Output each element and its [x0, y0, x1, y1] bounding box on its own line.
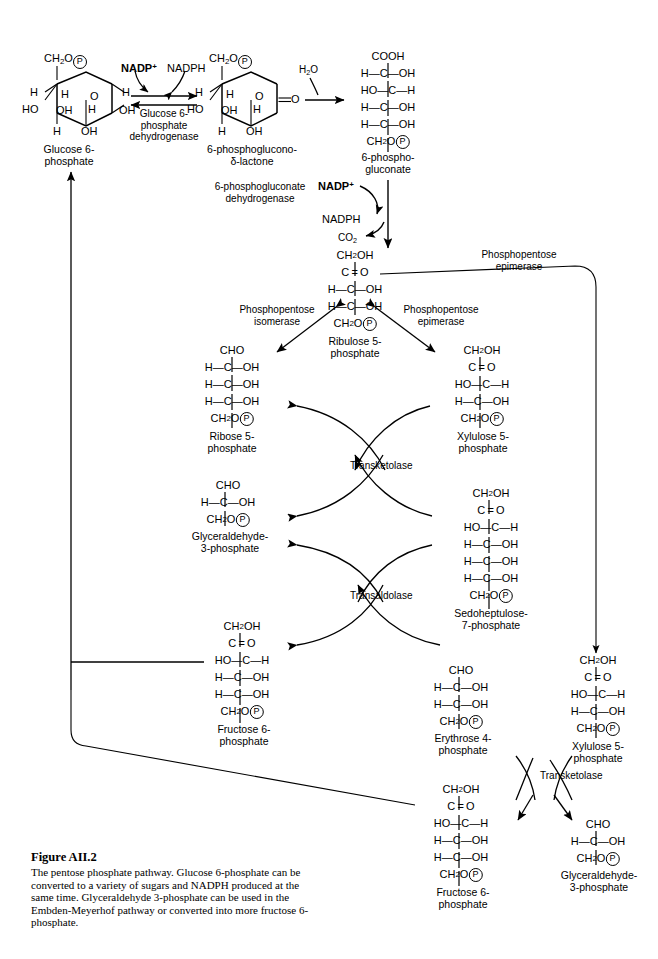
ribose5p-row-2: H—C—OH: [205, 359, 259, 376]
ribulose5p-row-3: H—C—OH: [328, 281, 382, 298]
glucose6p-h-c2: H: [88, 103, 96, 115]
structure-glyceraldehyde-3-phosphate-mid: CHO H—C—OH CH2OP: [201, 477, 255, 528]
f6p-mid-row-3: HO—C—H: [215, 652, 269, 669]
ribose5p-row-1: CHO: [205, 342, 259, 359]
fructose6p-mid-label: Fructose 6- phosphate: [206, 724, 282, 747]
lactone-ch2op: CH2OP: [209, 52, 252, 69]
f6p-low-row-2: C = O: [434, 798, 488, 815]
enzyme-phosphopentose-isomerase: Phosphopentose isomerase: [222, 304, 332, 327]
xylulose5p-lower-row-2: C = O: [571, 669, 625, 686]
sedo7p-row-5: H—C—OH: [464, 553, 518, 570]
enzyme-transketolase-upper: Transketolase: [350, 460, 436, 472]
gluconate-row-2: H—C—OH: [361, 65, 415, 82]
f6p-mid-row-1: CH2OH: [215, 618, 269, 635]
structure-erythrose-4-phosphate: CHO H—C—OH H—C—OH CH2OP: [434, 662, 488, 730]
lactone-carbonyl-o: O: [291, 93, 300, 105]
glucose6p-ho: HO: [22, 103, 39, 115]
ribulose5p-row-4: H—C—OH: [328, 298, 382, 315]
structure-fructose-6-phosphate-mid: CH2OH C = O HO—C—H H—C—OH H—C—OH CH2OP: [215, 618, 269, 720]
lactone-oh-inner: OH: [221, 104, 238, 116]
e4p-row-2: H—C—OH: [434, 679, 488, 696]
f6p-low-row-5: H—C—OH: [434, 849, 488, 866]
xylulose5p-lower-label: Xylulose 5- phosphate: [561, 741, 635, 764]
ribose5p-label: Ribose 5- phosphate: [196, 431, 268, 454]
g3p-low-row-2: H—C—OH: [571, 833, 625, 850]
xylulose5p-lower-row-3: HO—C—H: [571, 686, 625, 703]
sedo7p-row-7: CH2OP: [464, 587, 518, 604]
glucose6p-h-left: H: [30, 86, 38, 98]
g3p-mid-label: Glyceraldehyde- 3-phosphate: [182, 531, 278, 554]
lactone-h-left: H: [195, 86, 203, 98]
ribose5p-row-3: H—C—OH: [205, 376, 259, 393]
structure-ribose-5-phosphate: CHO H—C—OH H—C—OH H—C—OH CH2OP: [205, 342, 259, 427]
f6p-low-row-3: HO—C—H: [434, 815, 488, 832]
glucose6p-h-inner: H: [61, 88, 69, 100]
gluconate-row-5: H—C—OH: [361, 116, 415, 133]
xylulose5p-upper-row-2: C = O: [455, 359, 509, 376]
xylulose5p-upper-row-3: HO—C—H: [455, 376, 509, 393]
figure-caption-text: The pentose phosphate pathway. Glucose 6…: [31, 866, 321, 929]
xylulose5p-upper-label: Xylulose 5- phosphate: [446, 431, 520, 454]
xylulose5p-lower-row-1: CH2OH: [571, 652, 625, 669]
co2-label: CO2: [338, 232, 357, 245]
enzyme-phosphopentose-epimerase-mid: Phosphopentose epimerase: [386, 304, 496, 327]
nadph2-label: NADPH: [322, 213, 361, 225]
gluconate-row-3: HO—C—H: [361, 82, 415, 99]
ribose5p-row-5: CH2OP: [205, 410, 259, 427]
structure-6-phosphogluconate: COOH H—C—OH HO—C—H H—C—OH H—C—OH CH2OP: [361, 48, 415, 150]
f6p-mid-row-4: H—C—OH: [215, 669, 269, 686]
structure-sedoheptulose-7-phosphate: CH2OH C = O HO—C—H H—C—OH H—C—OH H—C—OH …: [464, 485, 518, 604]
enzyme-phosphopentose-epimerase-top: Phosphopentose epimerase: [464, 249, 574, 272]
water-label: H2O: [299, 64, 318, 77]
enzyme-transaldolase: Transaldolase: [350, 590, 436, 602]
structure-xylulose-5-phosphate-upper: CH2OH C = O HO—C—H H—C—OH CH2OP: [455, 342, 509, 427]
glucose6p-o-ring: O: [90, 90, 99, 102]
xylulose5p-upper-row-4: H—C—OH: [455, 393, 509, 410]
ribulose5p-label: Ribulose 5- phosphate: [318, 336, 392, 359]
sedoheptulose7p-label: Sedoheptulose- 7-phosphate: [443, 608, 539, 631]
ribose5p-row-4: H—C—OH: [205, 393, 259, 410]
lactone-label: 6-phosphoglucono- δ-lactone: [194, 144, 310, 167]
figure-canvas: CH2OP H H HO OH O H H OH H OH Glucose 6-…: [0, 0, 658, 959]
f6p-low-row-6: CH2OP: [434, 866, 488, 883]
e4p-row-3: H—C—OH: [434, 696, 488, 713]
e4p-row-4: CH2OP: [434, 713, 488, 730]
g3p-mid-row-2: H—C—OH: [201, 494, 255, 511]
gluconate-row-4: H—C—OH: [361, 99, 415, 116]
nadph-top-label: NADPH: [167, 62, 206, 74]
e4p-row-1: CHO: [434, 662, 488, 679]
ribulose5p-row-1: CH2OH: [328, 247, 382, 264]
ribulose5p-row-2: C = O: [328, 264, 382, 281]
f6p-mid-row-2: C = O: [215, 635, 269, 652]
xylulose5p-lower-row-5: CH2OP: [571, 720, 625, 737]
f6p-mid-row-5: H—C—OH: [215, 686, 269, 703]
g3p-low-row-1: CHO: [571, 816, 625, 833]
g3p-mid-row-1: CHO: [201, 477, 255, 494]
lactone-h-c2: H: [253, 103, 261, 115]
fructose6p-to-glucose6p-line: [71, 172, 204, 690]
hydrolysis-arrow: [305, 78, 344, 100]
sedo7p-row-3: HO—C—H: [464, 519, 518, 536]
erythrose4p-label: Erythrose 4- phosphate: [425, 733, 501, 756]
gluconate-row-6: CH2OP: [361, 133, 415, 150]
f6p-mid-row-6: CH2OP: [215, 703, 269, 720]
enzyme-6-phosphogluconate-dehydrogenase: 6-phosphogluconate dehydrogenase: [203, 181, 317, 204]
f6p-low-row-1: CH2OH: [434, 781, 488, 798]
g3p-mid-row-3: CH2OP: [201, 511, 255, 528]
gluconate-row-1: COOH: [361, 48, 415, 65]
sedo7p-row-6: H—C—OH: [464, 570, 518, 587]
gluconate-label: 6-phospho- gluconate: [348, 152, 428, 175]
lactone-ho: HO: [187, 103, 204, 115]
glucose6p-h-bottom: H: [53, 125, 61, 137]
sedo7p-row-4: H—C—OH: [464, 536, 518, 553]
fructose6p-lower-label: Fructose 6- phosphate: [425, 887, 501, 910]
lactone-oh-bottom: OH: [246, 125, 263, 137]
lactone-h-inner: H: [226, 88, 234, 100]
glucose6p-ch2op: CH2OP: [44, 52, 87, 69]
xylulose5p-lower-row-4: H—C—OH: [571, 703, 625, 720]
structure-glyceraldehyde-3-phosphate-lower: CHO H—C—OH CH2OP: [571, 816, 625, 867]
ribulose5p-row-5: CH2OP: [328, 315, 382, 332]
g6pdh-reaction-arrows: [131, 71, 197, 105]
xylulose5p-upper-row-1: CH2OH: [455, 342, 509, 359]
structure-fructose-6-phosphate-lower: CH2OH C = O HO—C—H H—C—OH H—C—OH CH2OP: [434, 781, 488, 883]
